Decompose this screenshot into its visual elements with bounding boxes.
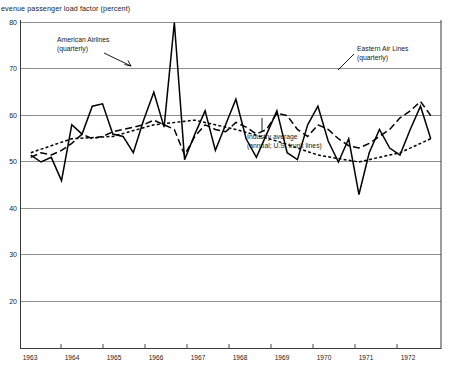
annotation-eastern-air-lines-line1: Eastern Air Lines xyxy=(357,45,409,52)
chart-title: evenue passenger load factor (percent) xyxy=(1,4,130,13)
x-tick-label-1964: 1964 xyxy=(65,354,80,361)
x-tick-label-1971: 1971 xyxy=(359,354,374,361)
annotation-american-airlines-line1: American Airlines xyxy=(57,36,110,43)
y-tick-label-60: 60 xyxy=(9,112,17,119)
x-tick-label-1967: 1967 xyxy=(191,354,206,361)
chart-container: evenue passenger load factor (percent) 8… xyxy=(0,0,464,372)
line-chart-figure: evenue passenger load factor (percent) 8… xyxy=(0,0,464,372)
x-tick-label-1965: 1965 xyxy=(107,354,122,361)
y-tick-label-30: 30 xyxy=(9,251,17,258)
x-tick-label-1970: 1970 xyxy=(317,354,332,361)
y-tick-label-80: 80 xyxy=(9,19,17,26)
annotation-eastern-air-lines-line2: (quarterly) xyxy=(357,54,388,62)
y-tick-label-20: 20 xyxy=(9,298,17,305)
x-tick-label-1972: 1972 xyxy=(401,354,416,361)
annotation-industry-average-line2: (annual; U.S. trunk lines) xyxy=(247,142,322,150)
annotation-american-airlines-line2: (quarterly) xyxy=(57,45,88,53)
x-tick-label-1966: 1966 xyxy=(149,354,164,361)
x-tick-label-1969: 1969 xyxy=(275,354,290,361)
x-tick-label-1968: 1968 xyxy=(233,354,248,361)
y-tick-label-50: 50 xyxy=(9,158,17,165)
annotation-industry-average-line1: Industry average xyxy=(247,133,298,141)
x-tick-label-1963: 1963 xyxy=(23,354,38,361)
y-tick-label-70: 70 xyxy=(9,65,17,72)
chart-background xyxy=(0,0,464,372)
y-tick-label-40: 40 xyxy=(9,205,17,212)
